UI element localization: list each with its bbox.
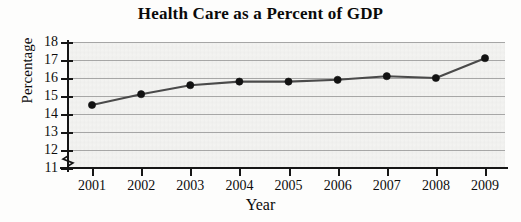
y-axis-tick	[61, 96, 73, 98]
data-point: 2002: 15.1	[138, 91, 145, 98]
data-point: 2004: 15.8	[236, 78, 243, 85]
axis-break-icon	[61, 150, 75, 170]
chart-title: Health Care as a Percent of GDP	[0, 4, 521, 24]
y-axis-tick	[61, 78, 73, 80]
y-axis-tick	[61, 132, 73, 134]
chart-figure: Health Care as a Percent of GDP 2001: 14…	[0, 0, 521, 222]
series-markers: 2001: 14.52002: 15.12003: 15.62004: 15.8…	[88, 55, 488, 109]
y-axis-tick-label: 15	[32, 89, 58, 103]
data-point: 2001: 14.5	[88, 101, 95, 108]
data-point: 2008: 16	[432, 74, 439, 81]
x-axis-tick	[338, 169, 340, 176]
data-point: 2003: 15.6	[187, 82, 194, 89]
x-axis-tick-label: 2008	[411, 178, 461, 193]
x-axis-tick-label: 2009	[460, 178, 510, 193]
x-axis-tick-label: 2002	[116, 178, 166, 193]
y-axis-tick-label: 12	[32, 143, 58, 157]
y-axis-tick	[61, 42, 73, 44]
y-axis-tick-label: 17	[32, 53, 58, 67]
series-plot: 2001: 14.52002: 15.12003: 15.62004: 15.8…	[68, 42, 505, 168]
y-axis-tick	[61, 114, 73, 116]
x-axis-tick	[289, 169, 291, 176]
data-point: 2006: 15.9	[334, 76, 341, 83]
y-axis-tick-label: 14	[32, 107, 58, 121]
x-axis-tick-label: 2001	[67, 178, 117, 193]
y-axis-tick-label: 11	[32, 161, 58, 175]
x-axis-tick-label: 2006	[313, 178, 363, 193]
data-point: 2009: 17.1	[481, 55, 488, 62]
x-axis-tick-label: 2004	[214, 178, 264, 193]
plot-area: 2001: 14.52002: 15.12003: 15.62004: 15.8…	[68, 42, 505, 168]
x-axis-tick	[387, 169, 389, 176]
x-axis-tick-label: 2005	[264, 178, 314, 193]
y-axis-tick-label: 16	[32, 71, 58, 85]
data-point: 2005: 15.8	[285, 78, 292, 85]
x-axis-tick	[141, 169, 143, 176]
y-axis-tick-label: 13	[32, 125, 58, 139]
data-point: 2007: 16.1	[383, 73, 390, 80]
x-axis-title: Year	[0, 196, 521, 214]
x-axis-tick	[436, 169, 438, 176]
y-axis-tick-label: 18	[32, 35, 58, 49]
y-axis-title: Percentage	[19, 16, 36, 126]
x-axis-tick-label: 2003	[165, 178, 215, 193]
x-axis-tick	[239, 169, 241, 176]
x-axis-tick	[190, 169, 192, 176]
x-axis-tick	[485, 169, 487, 176]
x-axis-tick	[92, 169, 94, 176]
x-axis-line	[60, 167, 508, 169]
y-axis-tick	[61, 60, 73, 62]
x-axis-tick-label: 2007	[362, 178, 412, 193]
